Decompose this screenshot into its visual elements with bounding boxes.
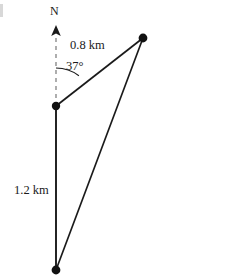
navigation-triangle-diagram <box>0 0 250 276</box>
vertex-upper-right-dot <box>139 34 148 43</box>
vertex-origin-dot <box>52 102 60 110</box>
north-arrowhead-icon <box>51 25 61 36</box>
side-length-label-0-8-km: 0.8 km <box>70 38 105 52</box>
north-label: N <box>50 5 59 18</box>
vertex-bottom-dot <box>52 266 61 275</box>
side-length-label-1-2-km: 1.2 km <box>14 183 49 197</box>
angle-label-37-degrees: 37° <box>66 59 84 73</box>
